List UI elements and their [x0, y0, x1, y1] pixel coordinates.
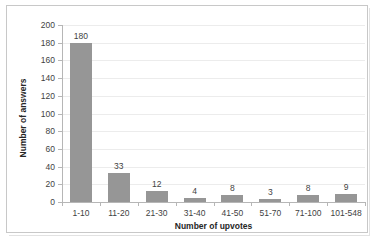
- bar-value-label: 3: [268, 187, 273, 197]
- bar-group: 33: [100, 25, 138, 202]
- y-axis-tick-label: 80: [31, 126, 55, 137]
- x-axis-tick-labels: 1-1011-2021-3031-4041-5051-7071-100101-5…: [62, 208, 365, 220]
- bar-group: 9: [327, 25, 365, 202]
- bar-value-label: 180: [74, 31, 88, 41]
- x-axis-tick-mark: [100, 202, 101, 206]
- x-axis-tick-mark: [176, 202, 177, 206]
- bar-group: 12: [138, 25, 176, 202]
- y-axis-tick-label: 20: [31, 179, 55, 190]
- y-axis-tick-label: 180: [31, 38, 55, 49]
- bar-group: 8: [214, 25, 252, 202]
- y-axis-tick-mark: [58, 149, 62, 150]
- bar: [146, 191, 168, 202]
- x-axis-tick-mark: [62, 202, 63, 206]
- y-axis-tick-mark: [58, 167, 62, 168]
- bar-group: 180: [62, 25, 100, 202]
- x-axis-tick-label: 11-20: [108, 208, 129, 219]
- y-axis-tick-label: 120: [31, 91, 55, 102]
- y-axis-tick-mark: [58, 78, 62, 79]
- x-axis-tick-mark: [214, 202, 215, 206]
- y-axis-tick-mark: [58, 25, 62, 26]
- bar-value-label: 4: [192, 186, 197, 196]
- bar: [297, 195, 319, 202]
- x-axis-tick-label: 31-40: [184, 208, 206, 219]
- x-axis-tick-label: 101-548: [330, 208, 361, 219]
- bar-value-label: 33: [114, 161, 123, 171]
- y-axis-tick-label: 140: [31, 73, 55, 84]
- x-axis-tick-mark: [138, 202, 139, 206]
- x-axis-tick-mark: [289, 202, 290, 206]
- bar: [221, 195, 243, 202]
- y-axis-tick-label: 40: [31, 162, 55, 173]
- y-axis-tick-labels: 200180160140120100806040200: [31, 19, 55, 203]
- y-axis-tick-label: 200: [31, 20, 55, 31]
- bar: [335, 194, 357, 202]
- bar-group: 4: [176, 25, 214, 202]
- y-axis-tick-label: 100: [31, 109, 55, 120]
- y-axis-title: Number of answers: [18, 28, 32, 208]
- y-axis-tick-mark: [58, 96, 62, 97]
- bar: [70, 43, 92, 202]
- y-axis-tick-label: 160: [31, 55, 55, 66]
- x-axis-tick-label: 21-30: [146, 208, 168, 219]
- bar-value-label: 8: [306, 183, 311, 193]
- y-axis-tick-mark: [58, 43, 62, 44]
- y-axis-tick-mark: [58, 131, 62, 132]
- y-axis-tick-label: 0: [31, 197, 55, 208]
- x-axis-tick-label: 51-70: [259, 208, 281, 219]
- frame-shadow-right: [369, 8, 370, 236]
- x-axis-tick-mark: [251, 202, 252, 206]
- bar-value-label: 9: [344, 182, 349, 192]
- bars-layer: 180331248389: [62, 25, 365, 202]
- x-axis-tick-mark: [327, 202, 328, 206]
- x-axis-tick-label: 1-10: [72, 208, 89, 219]
- y-axis-tick-mark: [58, 202, 62, 203]
- x-axis-tick-mark: [365, 202, 366, 206]
- bar-group: 3: [251, 25, 289, 202]
- x-axis-title: Number of upvotes: [62, 221, 365, 231]
- bar-group: 8: [289, 25, 327, 202]
- y-axis-tick-mark: [58, 114, 62, 115]
- x-axis-tick-label: 41-50: [222, 208, 244, 219]
- y-axis-tick-mark: [58, 60, 62, 61]
- x-axis-tick-label: 71-100: [295, 208, 321, 219]
- bar-value-label: 8: [230, 183, 235, 193]
- bar: [108, 173, 130, 202]
- bar-value-label: 12: [152, 179, 161, 189]
- frame-shadow-bottom: [9, 235, 369, 236]
- y-axis-tick-label: 60: [31, 144, 55, 155]
- y-axis-tick-mark: [58, 184, 62, 185]
- chart-frame: Number of answers 2001801601401201008060…: [6, 5, 368, 233]
